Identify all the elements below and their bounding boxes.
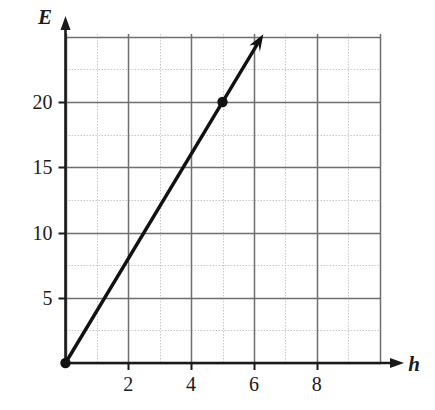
y-axis-tick-label: 20 [33,91,53,113]
x-axis-tick-label: 8 [312,373,322,395]
line-chart-canvas: 51015202468 E h [0,0,435,410]
x-axis-label: h [408,352,420,376]
data-point-marker [217,97,227,107]
x-axis-tick-label: 6 [249,373,259,395]
y-axis-tick-label: 15 [33,156,53,178]
y-axis-label: E [37,5,52,29]
y-axis-tick-label: 10 [33,222,53,244]
y-axis-tick-label: 5 [43,287,53,309]
data-point-marker [60,358,70,368]
x-axis-tick-label: 4 [186,373,196,395]
x-axis-tick-label: 2 [123,373,133,395]
chart-figure: 51015202468 E h [0,0,435,410]
